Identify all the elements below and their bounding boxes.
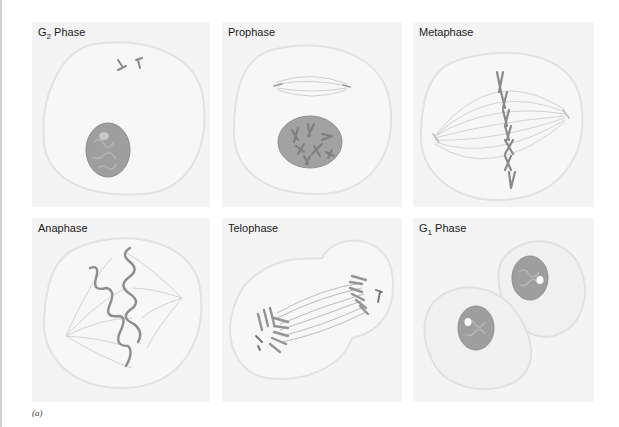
anaphase-cell-illustration bbox=[32, 218, 210, 402]
prophase-cell-illustration bbox=[222, 22, 402, 207]
panel-label-prophase: Prophase bbox=[228, 26, 275, 38]
g2-cell-illustration bbox=[32, 22, 210, 207]
panel-telophase: Telophase bbox=[222, 218, 402, 402]
page-edge-rule bbox=[0, 0, 2, 427]
panel-label-g2-phase: G2 Phase bbox=[38, 26, 85, 38]
panel-label-telophase: Telophase bbox=[228, 222, 278, 234]
panel-label-anaphase: Anaphase bbox=[38, 222, 88, 234]
g1-cell-illustration bbox=[413, 218, 594, 402]
figure-caption: (a) bbox=[32, 408, 43, 418]
telophase-cell-illustration bbox=[222, 218, 402, 402]
panel-label-g1-phase: G1 Phase bbox=[419, 222, 466, 234]
panel-g2-phase: G2 Phase bbox=[32, 22, 210, 207]
panel-label-metaphase: Metaphase bbox=[419, 26, 473, 38]
panel-prophase: Prophase bbox=[222, 22, 402, 207]
panel-anaphase: Anaphase bbox=[32, 218, 210, 402]
panel-g1-phase: G1 Phase bbox=[413, 218, 594, 402]
panel-metaphase: Metaphase bbox=[413, 22, 594, 207]
metaphase-cell-illustration bbox=[413, 22, 594, 207]
